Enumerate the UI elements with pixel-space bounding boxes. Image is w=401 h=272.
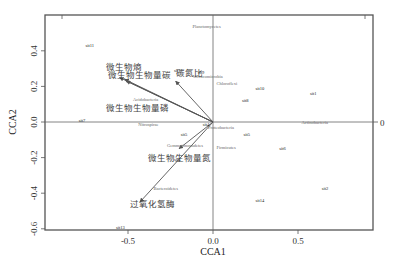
plot-frame <box>45 15 378 230</box>
right-axis-label: 0 <box>380 118 385 128</box>
site-label: sit5 <box>181 132 188 137</box>
site-label: sit14 <box>256 198 266 203</box>
site-label: sit2 <box>322 186 329 191</box>
species-label: Nitrospirae <box>138 122 158 127</box>
species-label: Planctomycetes <box>193 24 221 29</box>
site-label: sit4 <box>203 122 210 127</box>
env-vector-label: 微生物生物量磷 <box>106 103 169 113</box>
species-label: Bacteroidetes <box>154 186 179 191</box>
x-axis-title: CCA1 <box>200 246 226 257</box>
site-label: sit1 <box>310 91 317 96</box>
y-tick-label: 0.2 <box>29 81 39 92</box>
y-tick-label: 0.4 <box>29 45 39 57</box>
site-label: sit6 <box>279 146 286 151</box>
site-label: sit13 <box>116 225 126 230</box>
site-label: sit7 <box>79 118 86 123</box>
y-tick-label: -0.2 <box>29 150 39 164</box>
site-label: sit11 <box>86 43 95 48</box>
env-vector-label: 过氧化氢酶 <box>130 199 175 209</box>
y-tick-label: 0.0 <box>29 116 39 128</box>
species-label: Firmicutes <box>216 145 235 150</box>
env-vector-label: 碳氮比 <box>176 68 203 78</box>
env-vector-label: 微生物生物量碳 <box>108 70 171 80</box>
x-tick-label: -0.5 <box>121 236 136 246</box>
species-label: Chloroflexi <box>216 81 237 86</box>
env-vector-arrow <box>176 81 213 122</box>
site-label: sit10 <box>256 86 266 91</box>
env-vector-label: 微生物生物量氮 <box>148 153 211 163</box>
species-label: Gemmatimonadetes <box>167 143 203 148</box>
species-label: Actinobacteria <box>301 120 328 125</box>
cca-biplot: -0.50.00.5-0.6-0.4-0.20.00.20.4 Planctom… <box>0 0 401 272</box>
chart-svg: -0.50.00.5-0.6-0.4-0.20.00.20.4 Planctom… <box>0 0 401 272</box>
x-tick-label: 0.0 <box>207 236 219 246</box>
x-tick-label: 0.5 <box>292 236 304 246</box>
y-tick-label: -0.4 <box>29 186 39 201</box>
species-label: Acidobacteria <box>133 97 158 102</box>
species-label: Proteobacteria <box>208 125 234 130</box>
y-axis-title: CCA2 <box>7 109 18 135</box>
site-label: sit8 <box>242 98 249 103</box>
site-label: sit5 <box>244 132 251 137</box>
y-tick-label: -0.6 <box>29 221 39 236</box>
